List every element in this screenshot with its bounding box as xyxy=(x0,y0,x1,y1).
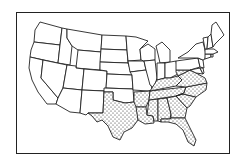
state-kansas xyxy=(106,74,133,89)
state-wyoming xyxy=(76,50,101,70)
state-new-york xyxy=(178,42,206,60)
state-south-dakota xyxy=(100,49,128,63)
state-florida xyxy=(161,118,196,146)
state-utah xyxy=(63,65,84,90)
state-indiana xyxy=(157,63,165,80)
state-colorado xyxy=(82,69,107,91)
state-new-mexico xyxy=(80,90,104,115)
state-washington xyxy=(34,22,62,45)
state-arkansas xyxy=(134,91,150,107)
state-massachusetts xyxy=(205,49,218,54)
state-connecticut xyxy=(205,54,211,59)
state-pennsylvania xyxy=(176,58,200,70)
state-north-dakota xyxy=(101,35,127,50)
state-montana xyxy=(67,29,102,52)
us-map xyxy=(0,0,244,167)
state-maine xyxy=(211,22,224,47)
state-michigan xyxy=(156,42,170,63)
